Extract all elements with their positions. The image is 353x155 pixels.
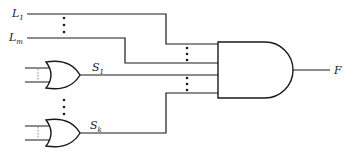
label-lm: Lm [8, 31, 23, 46]
ellipsis-and-inputs-bottom [186, 77, 189, 92]
label-sk: Sk [90, 119, 102, 134]
and-input-stubs [208, 44, 218, 93]
or-gate-1 [25, 61, 80, 89]
wire-l1 [27, 14, 208, 44]
or-gate-k [25, 119, 80, 147]
ellipsis-literals [63, 17, 66, 34]
label-s1: S1 [92, 61, 104, 76]
ellipsis-and-inputs-top [186, 47, 189, 62]
label-l1: L1 [11, 7, 24, 22]
wire-lm [27, 38, 208, 63]
label-f: F [333, 64, 342, 77]
circuit-diagram: L1 Lm S1 Sk F [0, 0, 353, 155]
ellipsis-or-gates [63, 99, 66, 116]
and-gate [218, 42, 293, 98]
